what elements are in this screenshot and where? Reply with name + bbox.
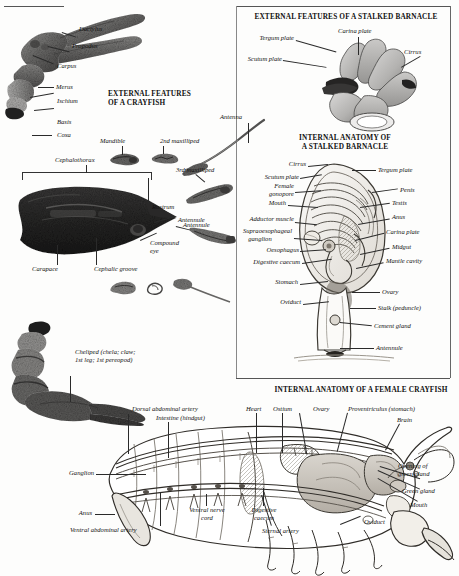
label-mouth-int: Mouth <box>254 199 286 207</box>
label-scutum-plate-int: Scutum plate <box>253 173 299 181</box>
label-supraoesophageal: Supraoesophageal ganglion <box>228 227 292 242</box>
label-dorsal-abdominal-artery: Dorsal abdominal artery <box>132 405 198 413</box>
leader-ventral-nerve-cord <box>206 494 207 506</box>
label-digestive-caecum-barnacle: Digestive caecum <box>240 258 300 266</box>
heading-internal-crayfish: INTERNAL ANATOMY OF A FEMALE CRAYFISH <box>268 385 454 394</box>
heading-internal-barnacle-line2: A STALKED BARNACLE <box>286 142 404 151</box>
label-digestive-caecum-crayfish: Digestive caecum <box>240 506 288 521</box>
label-scutum-plate-ext: Scutum plate <box>230 55 282 63</box>
label-cement-gland: Cement gland <box>374 322 411 330</box>
label-ovary-barnacle: Ovary <box>382 288 398 296</box>
label-oviduct-barnacle: Oviduct <box>263 298 301 306</box>
second-maxilliped-photo <box>150 150 180 166</box>
label-propodus: Propodus <box>72 42 97 50</box>
label-opening-green-gland: Opening of green gland <box>398 462 456 477</box>
label-rostrum: Rostrum <box>152 203 174 211</box>
label-brain: Brain <box>397 416 412 424</box>
rule-right-edge <box>450 6 451 378</box>
leader-intestine <box>168 422 169 458</box>
label-anus-crayfish: Anus <box>58 509 92 517</box>
label-2nd-maxilliped: 2nd maxilliped <box>160 137 199 145</box>
label-supraoesophageal-line1: Supraoesophageal <box>228 227 292 235</box>
leader-ostium <box>282 413 283 453</box>
appendage-photo-c <box>170 275 232 305</box>
leader-ovary-barnacle <box>352 292 380 293</box>
label-3rd-maxilliped: 3rd maxilliped <box>176 166 214 174</box>
label-antenna: Antenna <box>220 113 242 121</box>
heading-external-barnacle: EXTERNAL FEATURES OF A STALKED BARNACLE <box>244 12 448 21</box>
label-stomach-barnacle: Stomach <box>258 278 298 286</box>
leader-antennule-barnacle <box>340 348 374 349</box>
label-green-gland: Green gland <box>402 487 435 495</box>
label-midgut: Midgut <box>392 243 411 251</box>
rule-top-left <box>4 6 64 7</box>
label-compound-eye-line2: eye <box>150 247 190 255</box>
leader-heart <box>256 413 257 453</box>
label-cephalic-groove: Cephalic groove <box>94 265 138 273</box>
leader-stalk <box>350 308 376 309</box>
label-female-gonopore: Female gonopore <box>252 182 294 197</box>
label-digestive-caecum-crayfish-line2: caecum <box>240 514 288 522</box>
label-adductor-muscle: Adductor muscle <box>238 215 294 223</box>
leader-tergum-plate-int <box>352 170 376 171</box>
label-coxa: Coxa <box>57 131 71 139</box>
label-compound-eye: Compound eye <box>150 239 190 254</box>
leader-cephalic-groove <box>96 238 97 265</box>
label-cheliped-line1: Cheliped (chela; claw; <box>75 348 175 356</box>
label-mouth-crayfish: Mouth <box>410 501 427 509</box>
label-stalk: Stalk (peduncle) <box>378 304 421 312</box>
heading-external-crayfish: EXTERNAL FEATURES OF A CRAYFISH <box>108 89 208 107</box>
label-supraoesophageal-line2: ganglion <box>228 235 292 243</box>
label-female-gonopore-line2: gonopore <box>252 190 294 198</box>
label-basis: Basis <box>57 118 71 126</box>
label-proventriculus: Proventriculus (stomach) <box>348 405 415 413</box>
label-opening-green-gland-line2: green gland <box>398 470 456 478</box>
label-ventral-nerve-cord: Ventral nerve cord <box>178 506 236 521</box>
label-merus: Merus <box>56 83 73 91</box>
mandible-photo <box>107 151 141 167</box>
heading-external-crayfish-line1: EXTERNAL FEATURES <box>108 89 208 98</box>
leader-carapace <box>57 245 58 265</box>
label-antennule-crayfish: Antennule <box>178 216 205 224</box>
label-ganglion: Ganglion <box>58 469 94 477</box>
anatomy-plate: Dactylus Propodus Carpus Merus Ischium B… <box>0 0 459 576</box>
label-mantle-cavity: Mantle cavity <box>386 257 422 265</box>
label-cirrus-int: Cirrus <box>272 160 306 168</box>
leader-rostrum <box>148 178 149 204</box>
label-carpus: Carpus <box>57 62 76 70</box>
label-mandible: Mandible <box>100 137 125 145</box>
label-oviduct-crayfish: Oviduct <box>364 518 385 526</box>
bracket-cephalothorax <box>22 172 152 180</box>
label-sternal-artery: Sternal artery <box>262 527 299 535</box>
leader-ventral-abdominal-artery <box>160 492 161 526</box>
rule-top-right <box>236 6 450 7</box>
label-female-gonopore-line1: Female <box>252 182 294 190</box>
label-testis: Testis <box>392 199 407 207</box>
leader-merus <box>38 87 54 88</box>
appendage-photo-b <box>145 280 165 296</box>
label-tergum-plate-int: Tergum plate <box>378 166 413 174</box>
leader-2nd-maxilliped <box>163 146 164 154</box>
label-cheliped-line2: 1st leg; 1st pereopod) <box>75 356 175 364</box>
label-anus-barnacle: Anus <box>392 213 405 221</box>
label-tergum-plate-ext: Tergum plate <box>242 34 294 42</box>
leader-cephalothorax <box>86 165 87 173</box>
leader-ganglion <box>96 474 146 475</box>
label-cephalothorax: Cephalothorax <box>55 156 95 164</box>
label-dactylus: Dactylus <box>79 25 102 33</box>
label-opening-green-gland-line1: Opening of <box>398 462 456 470</box>
label-ventral-nerve-cord-line2: cord <box>178 514 236 522</box>
third-maxilliped-photo <box>183 180 235 206</box>
label-intestine: Intestine (hindgut) <box>156 414 205 422</box>
label-cirrus-ext: Cirrus <box>404 48 421 56</box>
label-ventral-nerve-cord-line1: Ventral nerve <box>178 506 236 514</box>
rule-mid-right <box>236 378 450 379</box>
label-ostium: Ostium <box>273 405 292 413</box>
leader-antenna <box>248 123 249 143</box>
leader-coxa <box>32 135 52 136</box>
label-heart: Heart <box>246 405 261 413</box>
label-carina-plate-int: Carina plate <box>386 228 420 236</box>
appendage-photo-a <box>108 279 138 297</box>
leader-mandible <box>122 146 123 155</box>
leader-dorsal-abdominal-artery <box>128 414 129 454</box>
